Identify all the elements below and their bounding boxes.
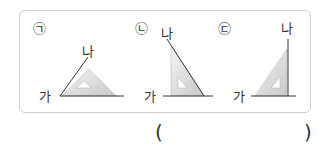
triangle-ruler-diagrams: ㉠ 나 가 ㉡ 나 가 ㉢ 나 가	[0, 0, 328, 164]
marker-2: ㉡	[135, 21, 148, 36]
figure-2: ㉡ 나 가	[135, 21, 213, 104]
figure-1: ㉠ 나 가	[33, 21, 124, 104]
figure-3: ㉢ 나 가	[218, 21, 296, 104]
label-ga-1: 가	[39, 89, 51, 104]
label-na-3: 나	[281, 21, 293, 36]
label-na-2: 나	[161, 26, 173, 41]
label-na-1: 나	[82, 44, 94, 59]
label-ga-3: 가	[233, 89, 245, 104]
marker-3: ㉢	[218, 21, 231, 36]
marker-1: ㉠	[33, 21, 46, 36]
label-ga-2: 가	[144, 89, 156, 104]
answer-open-paren: (	[155, 120, 163, 144]
answer-close-paren: )	[304, 120, 312, 144]
